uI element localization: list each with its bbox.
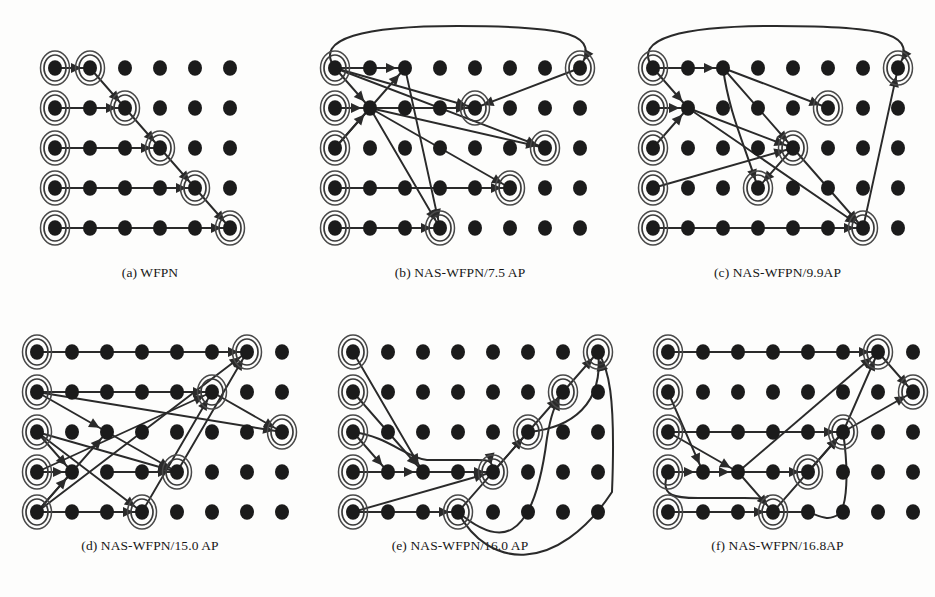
- node-dot-d-4-4: [170, 504, 184, 520]
- edge-layer: [353, 352, 613, 555]
- node-dot-e-6-3: [556, 464, 570, 480]
- edge-a-1: [90, 68, 125, 108]
- node-dot-c-2-4: [716, 220, 730, 236]
- node-dot-a-5-0: [223, 60, 237, 76]
- node-dot-f-2-1: [731, 384, 745, 400]
- node-dot-b-7-4: [573, 220, 587, 236]
- node-dot-c-4-0: [786, 60, 800, 76]
- node-dot-f-3-2: [766, 424, 780, 440]
- node-dot-b-0-0: [328, 60, 342, 76]
- node-dot-f-4-2: [801, 424, 815, 440]
- node-dot-f-0-3: [661, 464, 675, 480]
- edge-e-13: [458, 352, 613, 555]
- node-dot-a-4-3: [188, 180, 202, 196]
- node-dot-b-5-1: [503, 100, 517, 116]
- edge-e-0: [353, 352, 423, 472]
- node-dot-c-6-4: [856, 220, 870, 236]
- edge-arrowhead: [53, 467, 64, 477]
- node-dot-d-4-1: [170, 384, 184, 400]
- edge-d-15: [177, 352, 247, 472]
- node-dot-d-2-3: [100, 464, 114, 480]
- node-dot-b-3-4: [433, 220, 447, 236]
- node-dot-c-7-1: [891, 100, 905, 116]
- panel-c-caption: (c) NAS-WFPN/9.9AP: [714, 265, 841, 281]
- node-dot-a-1-1: [83, 100, 97, 116]
- node-dot-b-2-3: [398, 180, 412, 196]
- node-layer: [638, 51, 912, 245]
- panel-grid: (a) WFPN (b) NAS-WFPN/7.5 AP (c) NAS-WFP…: [0, 0, 935, 597]
- node-dot-e-7-1: [591, 384, 605, 400]
- panel-b-diagram: [310, 0, 610, 255]
- node-dot-c-3-3: [751, 180, 765, 196]
- node-dot-e-5-2: [521, 424, 535, 440]
- node-dot-f-5-4: [836, 504, 850, 520]
- node-dot-b-6-4: [538, 220, 552, 236]
- node-dot-b-1-0: [363, 60, 377, 76]
- panel-a-diagram: [10, 0, 290, 255]
- panel-b: (b) NAS-WFPN/7.5 AP: [300, 0, 620, 290]
- node-dot-c-6-1: [856, 100, 870, 116]
- edge-e-12: [563, 352, 598, 392]
- panel-e-caption: (e) NAS-WFPN/16.0 AP: [392, 538, 529, 554]
- node-dot-a-3-3: [153, 180, 167, 196]
- node-dot-a-1-3: [83, 180, 97, 196]
- node-dot-c-6-3: [856, 180, 870, 196]
- edge-d-4: [37, 432, 72, 472]
- node-dot-b-7-0: [573, 60, 587, 76]
- node-dot-e-3-4: [451, 504, 465, 520]
- node-dot-a-4-2: [188, 140, 202, 156]
- node-dot-f-3-1: [766, 384, 780, 400]
- node-dot-b-2-0: [398, 60, 412, 76]
- panel-e: (e) NAS-WFPN/16.0 AP: [300, 290, 620, 587]
- node-dot-b-2-1: [398, 100, 412, 116]
- edge-a-5: [160, 148, 195, 188]
- node-dot-f-1-3: [696, 464, 710, 480]
- node-dot-e-3-2: [451, 424, 465, 440]
- node-dot-a-1-4: [83, 220, 97, 236]
- node-dot-d-5-2: [205, 424, 219, 440]
- edge-e-9: [493, 432, 528, 472]
- node-dot-d-0-1: [30, 384, 44, 400]
- node-dot-a-3-4: [153, 220, 167, 236]
- node-dot-b-7-2: [573, 140, 587, 156]
- node-dot-a-4-0: [188, 60, 202, 76]
- node-dot-c-5-3: [821, 180, 835, 196]
- node-dot-e-0-1: [346, 384, 360, 400]
- panel-b-canvas: [310, 0, 610, 259]
- panel-f-diagram: [628, 290, 928, 530]
- node-dot-c-1-2: [681, 140, 695, 156]
- node-dot-c-3-0: [751, 60, 765, 76]
- node-dot-d-1-4: [65, 504, 79, 520]
- node-dot-b-3-1: [433, 100, 447, 116]
- node-dot-c-3-4: [751, 220, 765, 236]
- node-dot-c-5-0: [821, 60, 835, 76]
- node-dot-d-0-3: [30, 464, 44, 480]
- node-dot-b-0-1: [328, 100, 342, 116]
- edge-layer: [330, 26, 593, 233]
- node-dot-d-4-3: [170, 464, 184, 480]
- node-dot-e-6-4: [556, 504, 570, 520]
- node-dot-b-6-0: [538, 60, 552, 76]
- node-dot-c-0-1: [646, 100, 660, 116]
- node-dot-a-2-3: [118, 180, 132, 196]
- node-dot-c-0-3: [646, 180, 660, 196]
- node-dot-f-1-4: [696, 504, 710, 520]
- node-dot-f-3-4: [766, 504, 780, 520]
- node-dot-e-7-4: [591, 504, 605, 520]
- node-dot-c-4-3: [786, 180, 800, 196]
- node-dot-d-3-2: [135, 424, 149, 440]
- node-dot-f-4-1: [801, 384, 815, 400]
- edge-arrowhead: [386, 63, 397, 73]
- edge-arrowhead: [669, 103, 680, 113]
- edge-layer: [647, 26, 910, 233]
- node-dot-f-6-0: [871, 344, 885, 360]
- node-dot-d-3-1: [135, 384, 149, 400]
- node-dot-c-4-2: [786, 140, 800, 156]
- node-dot-a-2-1: [118, 100, 132, 116]
- node-dot-b-1-3: [363, 180, 377, 196]
- node-dot-d-5-3: [205, 464, 219, 480]
- node-layer: [321, 51, 595, 245]
- node-dot-a-5-2: [223, 140, 237, 156]
- node-dot-b-3-3: [433, 180, 447, 196]
- node-dot-c-7-3: [891, 180, 905, 196]
